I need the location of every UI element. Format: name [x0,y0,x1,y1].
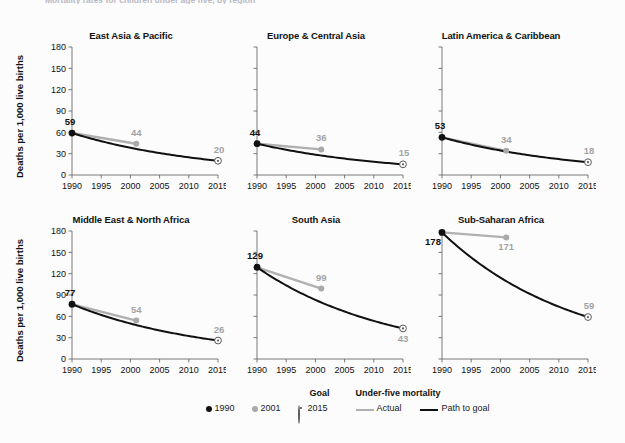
panel-plot: 19901995200020052010201517817159 [406,214,596,374]
svg-text:30: 30 [56,333,66,343]
svg-text:2005: 2005 [150,181,170,190]
svg-text:1990: 1990 [247,365,267,374]
legend-label-2015: 2015 [308,403,328,413]
svg-text:1990: 1990 [247,181,267,190]
data-label: 171 [498,241,515,252]
data-label: 44 [131,127,142,138]
data-label: 44 [250,127,261,138]
svg-text:2010: 2010 [549,181,569,190]
svg-text:2010: 2010 [364,365,384,374]
legend-goal-header: Goal [310,388,330,398]
svg-text:2000: 2000 [305,365,325,374]
panel-europe-central-asia: Europe & Central Asia1990199520002005201… [221,30,411,190]
svg-text:1990: 1990 [432,181,452,190]
svg-text:2010: 2010 [549,365,569,374]
svg-text:2000: 2000 [120,365,140,374]
svg-text:0: 0 [61,354,66,364]
svg-text:150: 150 [51,248,66,258]
svg-text:2015: 2015 [578,365,596,374]
svg-text:180: 180 [51,42,66,52]
svg-text:120: 120 [51,269,66,279]
legend-line-path-icon [420,409,438,412]
svg-text:1995: 1995 [276,365,296,374]
data-label: 59 [65,116,76,127]
svg-text:2010: 2010 [179,365,199,374]
svg-text:180: 180 [51,226,66,236]
svg-text:2000: 2000 [490,365,510,374]
data-label: 77 [65,287,76,298]
data-label: 129 [247,250,263,261]
data-label: 18 [584,145,595,156]
legend-line-actual-icon [356,409,374,411]
svg-text:150: 150 [51,64,66,74]
svg-text:1995: 1995 [461,365,481,374]
svg-text:2010: 2010 [364,181,384,190]
data-label: 34 [501,134,512,145]
svg-text:1995: 1995 [91,181,111,190]
legend-marker-2001-icon [252,406,258,412]
svg-text:60: 60 [56,312,66,322]
data-label: 36 [316,132,327,143]
panel-sub-saharan-africa: Sub-Saharan Africa1990199520002005201020… [406,214,596,374]
data-label: 178 [425,236,441,247]
svg-text:2010: 2010 [179,181,199,190]
svg-text:2000: 2000 [305,181,325,190]
y-axis-label-row2: Deaths per 1,000 live births [14,239,25,362]
svg-text:1995: 1995 [91,365,111,374]
legend: Goal Under-five mortality 1990 2001 2015… [0,388,625,428]
legend-label-actual: Actual [377,403,402,413]
svg-text:2005: 2005 [335,365,355,374]
svg-text:30: 30 [56,149,66,159]
data-label: 53 [435,120,446,131]
svg-text:2000: 2000 [120,181,140,190]
svg-text:120: 120 [51,85,66,95]
legend-label-1990: 1990 [215,403,235,413]
legend-series-header: Under-five mortality [356,388,441,398]
svg-text:1990: 1990 [432,365,452,374]
svg-text:0: 0 [61,170,66,180]
panel-south-asia: South Asia199019952000200520102015129994… [221,214,411,374]
data-label: 59 [584,300,595,311]
svg-text:1990: 1990 [62,181,82,190]
svg-text:2000: 2000 [490,181,510,190]
panel-plot: 199019952000200520102015443615 [221,30,411,190]
svg-text:1995: 1995 [461,181,481,190]
svg-text:1995: 1995 [276,181,296,190]
legend-marker-1990-icon [206,406,212,412]
figure-root: Mortality rates for children under age f… [0,0,625,443]
caption-fragment: Mortality rates for children under age f… [45,0,345,4]
data-label: 54 [131,304,142,315]
panel-plot: 199019952000200520102015533418 [406,30,596,190]
svg-text:60: 60 [56,128,66,138]
data-label: 99 [316,272,327,283]
panel-plot: 1990199520002005201020151299943 [221,214,411,374]
svg-text:2005: 2005 [150,365,170,374]
svg-text:2015: 2015 [578,181,596,190]
panel-plot: 0306090120150180199019952000200520102015… [36,214,226,374]
svg-text:2005: 2005 [520,365,540,374]
panel-plot: 0306090120150180199019952000200520102015… [36,30,226,190]
legend-label-2001: 2001 [261,403,281,413]
svg-text:90: 90 [56,106,66,116]
svg-text:1990: 1990 [62,365,82,374]
legend-label-path: Path to goal [442,403,490,413]
panel-east-asia-pacific: East Asia & Pacific030609012015018019901… [36,30,226,190]
y-axis-label-row1: Deaths per 1,000 live births [14,55,25,178]
svg-text:2005: 2005 [335,181,355,190]
legend-marker-2015-icon [298,405,300,424]
svg-text:2005: 2005 [520,181,540,190]
panel-latin-america-caribbean: Latin America & Caribbean199019952000200… [406,30,596,190]
panel-middle-east-north-africa: Middle East & North Africa03060901201501… [36,214,226,374]
